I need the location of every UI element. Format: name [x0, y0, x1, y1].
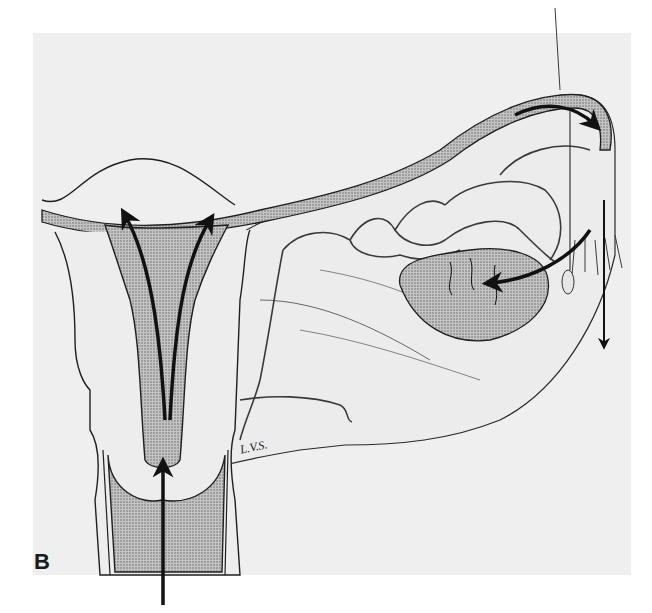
uterine-fundus — [42, 159, 235, 205]
anatomical-illustration — [0, 0, 652, 613]
panel-label: B — [34, 549, 50, 575]
uterus — [55, 225, 250, 575]
